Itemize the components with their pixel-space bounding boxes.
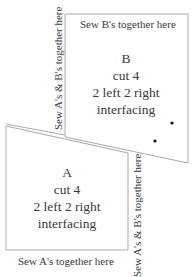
piece-a-info: A cut 4 2 left 2 right interfacing [17, 164, 117, 232]
piece-b-side-label: Sew A's & B's together here [53, 7, 64, 130]
piece-a-bottom-label: Sew A's together here [18, 256, 114, 267]
piece-a-letter: A [17, 164, 117, 181]
piece-b-info: B cut 4 2 left 2 right interfacing [76, 50, 176, 118]
piece-b-orientation: 2 left 2 right [76, 84, 176, 101]
piece-a-cut: cut 4 [17, 181, 117, 198]
piece-b-letter: B [76, 50, 176, 67]
piece-a-orientation: 2 left 2 right [17, 198, 117, 215]
piece-b-material: interfacing [76, 101, 176, 118]
marker-dot-1 [170, 121, 173, 124]
marker-dot-2 [153, 139, 156, 142]
piece-a-material: interfacing [17, 215, 117, 232]
pattern-outlines [0, 0, 193, 277]
piece-b-cut: cut 4 [76, 67, 176, 84]
piece-a-side-label: Sew A's & B's together here [132, 154, 143, 277]
piece-b-top-label: Sew B's together here [80, 19, 176, 30]
